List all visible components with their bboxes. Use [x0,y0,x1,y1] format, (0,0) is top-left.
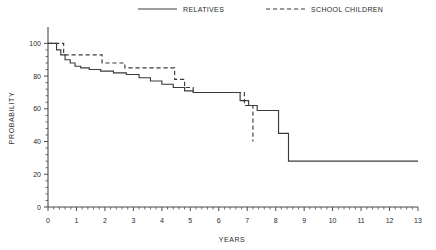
x-tick-label: 11 [357,217,364,224]
y-axis-title: PROBABILITY [8,92,15,145]
x-tick-label: 1 [75,217,79,224]
x-axis-ticks: 012345678910111213 [46,207,422,224]
x-tick-label: 5 [188,217,192,224]
x-tick-label: 4 [160,217,164,224]
x-tick-label: 7 [245,217,249,224]
x-axis-title: YEARS [219,236,246,243]
y-tick-label: 40 [33,138,41,145]
y-tick-label: 60 [33,105,41,112]
legend-label-school-children: SCHOOL CHILDREN [311,6,383,13]
x-tick-label: 13 [414,217,422,224]
legend-label-relatives: RELATIVES [183,6,224,13]
y-tick-label: 100 [29,40,41,47]
x-tick-label: 0 [46,217,50,224]
chart-svg: RELATIVES SCHOOL CHILDREN 020406080100 0… [0,0,436,250]
y-tick-label: 0 [37,204,41,211]
x-tick-label: 2 [103,217,107,224]
y-tick-label: 80 [33,73,41,80]
x-tick-label: 9 [302,217,306,224]
x-tick-label: 6 [217,217,221,224]
x-tick-label: 8 [274,217,278,224]
y-axis-ticks: 020406080100 [29,40,48,211]
chart-legend: RELATIVES SCHOOL CHILDREN [138,6,383,13]
x-tick-label: 10 [329,217,337,224]
survival-chart: RELATIVES SCHOOL CHILDREN 020406080100 0… [0,0,436,250]
series-line-relatives [48,43,418,161]
x-tick-label: 3 [131,217,135,224]
y-tick-label: 20 [33,171,41,178]
x-tick-label: 12 [386,217,394,224]
